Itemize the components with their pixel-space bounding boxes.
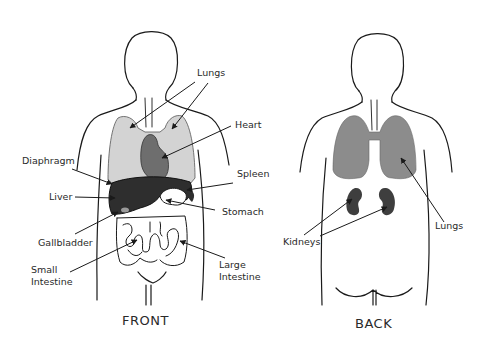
label-front-large-intestine-line1: Large <box>219 259 246 270</box>
back-neck-left <box>359 91 362 102</box>
front-right-arm-inner <box>198 150 204 300</box>
label-front-diaphragm: Diaphragm <box>22 155 75 166</box>
front-diaphragm-pointer <box>72 169 112 184</box>
back-kidney-right <box>379 188 395 215</box>
label-front-heart: Heart <box>235 119 262 130</box>
label-front-large-intestine-line2: Intestine <box>219 271 261 282</box>
front-spleen-pointer <box>187 183 233 190</box>
front-leg-divide <box>146 285 151 305</box>
label-front-small-intestine-line1: Small <box>31 264 57 275</box>
front-gallbladder <box>121 208 129 213</box>
label-front-liver: Liver <box>49 191 72 202</box>
front-groin <box>138 272 166 283</box>
back-lungs-pointer <box>401 158 444 222</box>
anatomy-diagram: Lungs Heart Diaphragm Spleen Liver Stoma… <box>0 0 482 349</box>
label-front-small-intestine-line2: Intestine <box>31 276 73 287</box>
back-buttocks <box>336 288 412 305</box>
back-figure: Lungs Kidneys BACK <box>283 34 463 331</box>
label-front-spleen: Spleen <box>237 168 269 179</box>
front-small-intestine <box>123 222 179 256</box>
front-trachea <box>145 98 152 127</box>
back-kidneys-pointer-left <box>304 199 352 235</box>
back-lungs <box>333 116 416 179</box>
front-left-arm-inner <box>97 155 101 300</box>
label-back-kidneys: Kidneys <box>283 236 320 247</box>
front-spleen <box>188 190 194 202</box>
front-neck-left <box>133 88 136 100</box>
label-front-gallbladder: Gallbladder <box>38 237 93 248</box>
back-view-title: BACK <box>355 316 392 331</box>
front-gallbladder-pointer <box>75 212 118 234</box>
label-back-lungs: Lungs <box>435 220 463 231</box>
front-figure: Lungs Heart Diaphragm Spleen Liver Stoma… <box>22 32 269 328</box>
front-view-title: FRONT <box>122 313 169 328</box>
front-stomach <box>160 188 186 205</box>
label-front-lungs: Lungs <box>197 67 225 78</box>
back-left-arm-inner <box>321 158 326 305</box>
front-head-outline <box>125 32 178 100</box>
label-front-stomach: Stomach <box>222 206 264 217</box>
back-right-arm-inner <box>424 150 429 305</box>
back-spine <box>371 100 377 130</box>
